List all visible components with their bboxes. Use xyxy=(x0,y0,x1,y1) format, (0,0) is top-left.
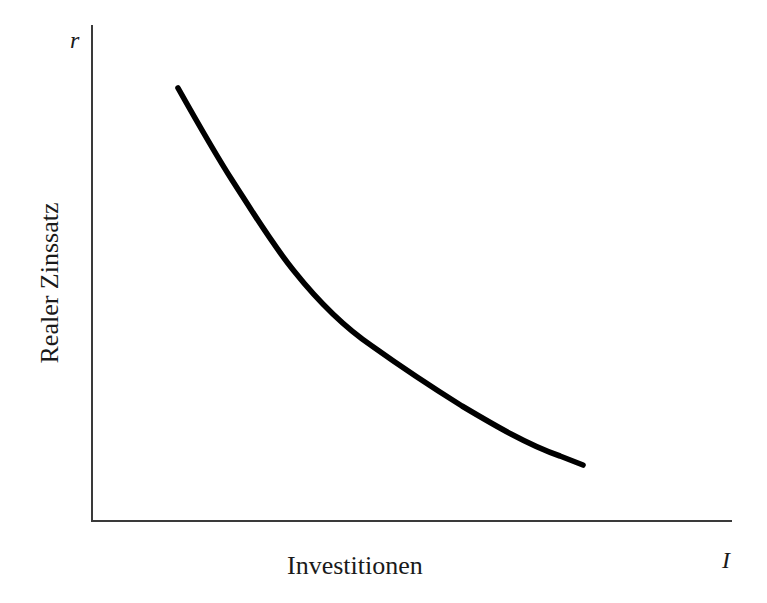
x-axis-title: Investitionen xyxy=(287,553,423,579)
x-axis-symbol-label: I xyxy=(722,548,730,572)
investment-demand-curve xyxy=(178,88,583,465)
y-axis-symbol-label: r xyxy=(70,28,79,52)
chart-canvas xyxy=(0,0,767,603)
y-axis-title: Realer Zinssatz xyxy=(37,163,63,403)
investment-demand-chart: r I Realer Zinssatz Investitionen xyxy=(0,0,767,603)
